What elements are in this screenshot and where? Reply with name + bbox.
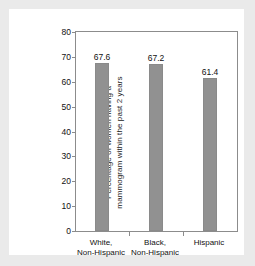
- x-category-line-1: White,: [77, 238, 125, 248]
- figure-root: Percentage of women having a mammogram w…: [0, 0, 255, 266]
- bar-hispanic[interactable]: 61.4: [203, 78, 217, 231]
- y-axis-label-line-2: mammogram within the past 2 years: [114, 39, 125, 247]
- x-category-line-2: Non-Hispanic: [77, 248, 125, 258]
- bar-value-hispanic: 61.4: [202, 67, 219, 77]
- x-category-label-hispanic: Hispanic: [194, 238, 225, 248]
- x-category-line-1: Hispanic: [194, 238, 225, 248]
- chart-card: Percentage of women having a mammogram w…: [9, 9, 244, 255]
- y-tickmark-30: [72, 156, 76, 157]
- x-category-label-white-non-hispanic: White, Non-Hispanic: [77, 238, 125, 258]
- y-tickmark-20: [72, 181, 76, 182]
- y-tickmark-80: [72, 32, 76, 33]
- y-tickmark-40: [72, 132, 76, 133]
- y-tickmark-10: [72, 206, 76, 207]
- bar-black-non-hispanic[interactable]: 67.2: [149, 64, 163, 231]
- y-tickmark-50: [72, 107, 76, 108]
- y-tickmark-70: [72, 57, 76, 58]
- x-category-line-2: Non-Hispanic: [131, 248, 179, 258]
- bar-white-non-hispanic[interactable]: 67.6: [95, 63, 109, 231]
- x-category-label-black-non-hispanic: Black, Non-Hispanic: [131, 238, 179, 258]
- x-category-line-1: Black,: [131, 238, 179, 248]
- bar-value-black-non-hispanic: 67.2: [148, 53, 165, 63]
- bar-value-white-non-hispanic: 67.6: [94, 52, 111, 62]
- y-tickmark-60: [72, 82, 76, 83]
- category-separator-2: [183, 231, 184, 236]
- plot-area: Percentage of women having a mammogram w…: [75, 31, 238, 232]
- y-tickmark-0: [72, 231, 76, 232]
- category-separator-1: [129, 231, 130, 236]
